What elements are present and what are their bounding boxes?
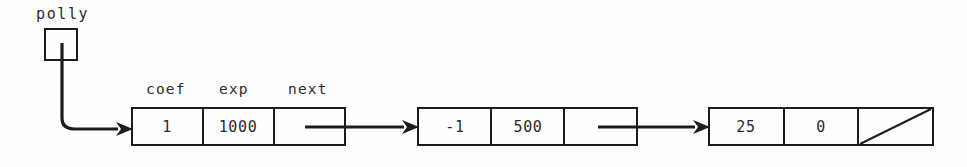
linked-list-diagram: polly coef exp next 1 1000 -1 500 bbox=[0, 0, 967, 167]
node-1-coef-value: 1 bbox=[162, 118, 172, 136]
node-3-coef-value: 25 bbox=[736, 118, 755, 136]
field-label-exp: exp bbox=[219, 81, 249, 97]
node-1-exp-value: 1000 bbox=[219, 118, 258, 136]
diagram-canvas: polly coef exp next 1 1000 -1 500 bbox=[0, 0, 967, 167]
node2-to-node3-arrowhead bbox=[693, 120, 710, 134]
node-2-coef-value: -1 bbox=[445, 118, 464, 136]
field-label-next: next bbox=[288, 81, 328, 97]
node1-to-node2-arrowhead bbox=[402, 120, 419, 134]
node-2-exp-value: 500 bbox=[514, 118, 543, 136]
pointer-to-node1-arrowhead bbox=[116, 122, 133, 136]
node-3-exp-value: 0 bbox=[816, 118, 826, 136]
node-3: 25 0 bbox=[709, 108, 933, 145]
pointer-variable-label: polly bbox=[36, 5, 89, 23]
field-label-coef: coef bbox=[146, 81, 186, 97]
